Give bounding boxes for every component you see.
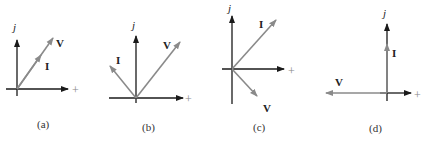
panel-caption: (c) bbox=[253, 121, 266, 134]
phasor-I-label: I bbox=[116, 54, 120, 66]
phasor-I-label: I bbox=[259, 18, 263, 30]
phasor-I-arrow bbox=[232, 20, 276, 69]
panel-d: j + V I (d) bbox=[326, 7, 421, 135]
phasor-V-label: V bbox=[163, 39, 171, 51]
phasor-I-arrow bbox=[110, 66, 136, 98]
phasor-V-label: V bbox=[335, 76, 343, 88]
panel-caption: (a) bbox=[37, 118, 50, 131]
phasor-V-arrow bbox=[136, 42, 180, 98]
phasor-I-label: I bbox=[45, 60, 49, 72]
imaginary-axis-label: j bbox=[130, 19, 135, 31]
phasor-I-label: I bbox=[392, 47, 396, 59]
panel-caption: (d) bbox=[369, 122, 382, 135]
imaginary-axis-label: j bbox=[381, 7, 386, 19]
panel-a: j + V I (a) bbox=[6, 21, 79, 131]
panel-b: j + V I (b) bbox=[109, 19, 192, 134]
phasor-V-label: V bbox=[56, 37, 64, 49]
phasor-V-label: V bbox=[263, 102, 271, 114]
real-axis-label: + bbox=[288, 64, 295, 78]
real-axis-label: + bbox=[414, 88, 421, 102]
phasor-I-arrow bbox=[17, 55, 41, 89]
panel-caption: (b) bbox=[142, 121, 155, 134]
imaginary-axis-label: j bbox=[11, 21, 16, 33]
real-axis-label: + bbox=[72, 83, 79, 97]
panel-c: j + I V (c) bbox=[222, 2, 295, 134]
real-axis-label: + bbox=[185, 92, 192, 106]
imaginary-axis-label: j bbox=[226, 2, 231, 14]
phasor-diagrams: j + V I (a) j + V I (b) j + I V (c) j + bbox=[0, 0, 430, 144]
phasor-V-arrow bbox=[232, 69, 257, 96]
